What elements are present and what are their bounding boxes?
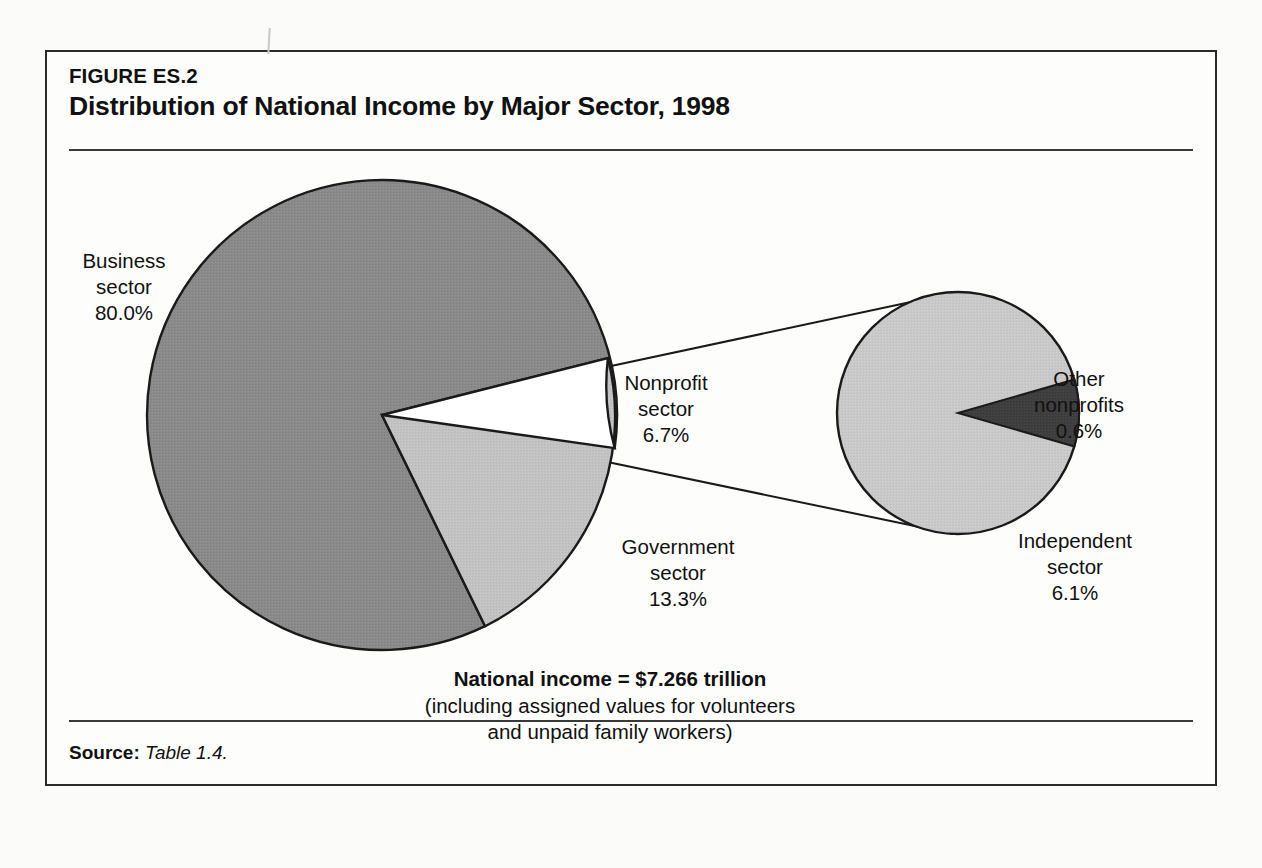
label-government-sector: Government sector 13.3% <box>588 534 768 611</box>
figure-title: Distribution of National Income by Major… <box>69 91 730 122</box>
source-label: Source: <box>69 742 140 763</box>
chart-footnote: National income = $7.266 trillion (inclu… <box>330 666 890 746</box>
label-other-nonprofits-name-line2: nonprofits <box>990 392 1168 418</box>
label-independent-sector-name-line2: sector <box>980 554 1170 580</box>
title-divider <box>69 149 1193 151</box>
label-government-sector-name-line2: sector <box>588 560 768 586</box>
label-business-sector-value: 80.0% <box>58 300 190 326</box>
label-nonprofit-sector: Nonprofit sector 6.7% <box>592 370 740 447</box>
source-note: Source: Table 1.4. <box>69 742 228 764</box>
source-value: Table 1.4. <box>145 742 228 763</box>
label-other-nonprofits: Other nonprofits 0.6% <box>990 366 1168 443</box>
label-independent-sector-value: 6.1% <box>980 580 1170 606</box>
label-other-nonprofits-name-line1: Other <box>990 366 1168 392</box>
label-business-sector-name-line1: Business <box>58 248 190 274</box>
label-business-sector-name-line2: sector <box>58 274 190 300</box>
label-nonprofit-sector-name-line1: Nonprofit <box>592 370 740 396</box>
footnote-line-2: (including assigned values for volunteer… <box>330 693 890 720</box>
label-nonprofit-sector-name-line2: sector <box>592 396 740 422</box>
label-other-nonprofits-value: 0.6% <box>990 418 1168 444</box>
footnote-line-1: National income = $7.266 trillion <box>330 666 890 693</box>
label-government-sector-name-line1: Government <box>588 534 768 560</box>
label-nonprofit-sector-value: 6.7% <box>592 422 740 448</box>
figure-number-label: FIGURE ES.2 <box>69 64 198 88</box>
footnote-line-3: and unpaid family workers) <box>330 719 890 746</box>
label-independent-sector: Independent sector 6.1% <box>980 528 1170 605</box>
label-government-sector-value: 13.3% <box>588 586 768 612</box>
label-independent-sector-name-line1: Independent <box>980 528 1170 554</box>
label-business-sector: Business sector 80.0% <box>58 248 190 325</box>
